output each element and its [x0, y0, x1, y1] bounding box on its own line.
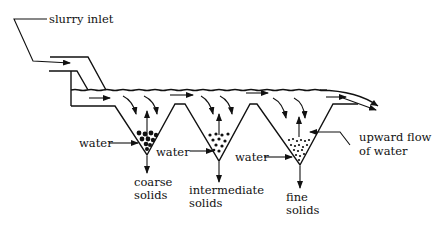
water-label-2: water — [156, 145, 190, 159]
fine-particles — [288, 138, 310, 161]
upward-flow-label-2: of water — [359, 144, 408, 158]
upward-flow-callout — [310, 132, 350, 145]
upward-flow-label-1: upward flow — [359, 130, 432, 144]
intermediate-label-1: intermediate — [189, 183, 264, 197]
water-label-3: water — [235, 150, 269, 164]
fine-label-2: solids — [286, 203, 320, 217]
water-label-1: water — [79, 136, 113, 150]
slurry-inlet-label: slurry inlet — [49, 12, 114, 26]
intermediate-label-2: solids — [189, 196, 223, 210]
settling-flow-arrows — [123, 96, 305, 118]
fine-label-1: fine — [286, 190, 308, 204]
coarse-label-2: solids — [134, 188, 168, 202]
classifier-diagram: slurry inlet — [0, 0, 434, 227]
inlet-channel — [49, 57, 106, 106]
horizontal-flow-arrows — [89, 93, 346, 98]
water-surface — [71, 90, 378, 107]
coarse-label-1: coarse — [134, 175, 173, 189]
